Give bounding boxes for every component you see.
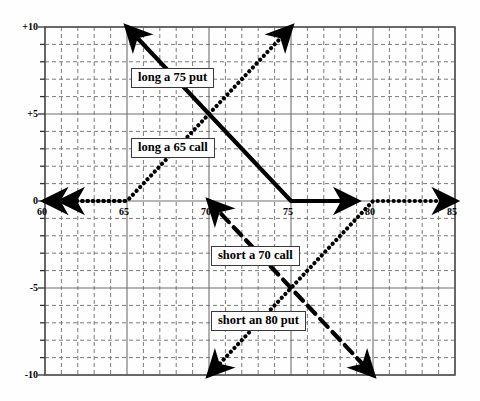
y-tick-minus5: -5: [6, 282, 38, 293]
x-tick-65: 65: [119, 206, 129, 217]
x-tick-85: 85: [447, 206, 457, 217]
y-tick-plus10: +10: [6, 21, 38, 32]
payoff-plot-svg: [0, 0, 480, 401]
callout-long-75-put: long a 75 put: [131, 68, 214, 88]
x-tick-80: 80: [365, 206, 375, 217]
callout-short-80-put: short an 80 put: [211, 311, 306, 331]
payoff-chart: 606570758085+10+50-5-10 long a 75 put lo…: [0, 0, 480, 401]
x-tick-70: 70: [201, 206, 211, 217]
y-tick-minus10: -10: [6, 369, 38, 380]
y-tick-plus5: +5: [6, 108, 38, 119]
x-tick-60: 60: [37, 206, 47, 217]
callout-short-70-call: short a 70 call: [211, 246, 300, 266]
y-tick-0: 0: [6, 195, 38, 206]
x-tick-75: 75: [283, 206, 293, 217]
callout-long-65-call: long a 65 call: [131, 138, 215, 158]
